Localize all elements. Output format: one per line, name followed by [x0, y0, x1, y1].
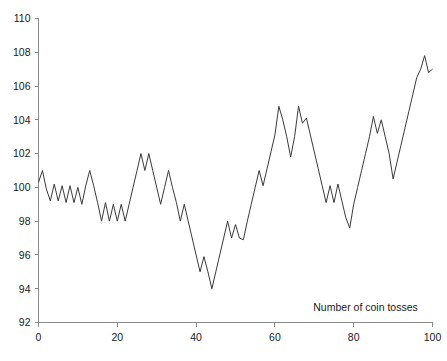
- y-axis-tick-label: 96: [19, 249, 31, 261]
- x-axis-tick-label: 100: [424, 331, 442, 343]
- y-axis-tick-label: 100: [13, 181, 31, 193]
- x-axis-tick-label: 40: [190, 331, 202, 343]
- data-series-group: [39, 56, 433, 289]
- annotation-group: Number of coin tosses: [313, 301, 417, 313]
- y-axis-tick-label: 102: [13, 147, 31, 159]
- y-axis: 92949698100102104106108110: [13, 12, 39, 328]
- coin-toss-random-walk-chart: 92949698100102104106108110 020406080100 …: [0, 0, 447, 361]
- x-axis: 020406080100: [36, 323, 442, 343]
- y-axis-tick-label: 94: [19, 283, 31, 295]
- x-axis-tick-label: 60: [269, 331, 281, 343]
- x-axis-tick-label: 0: [36, 331, 42, 343]
- data-line-series: [39, 56, 433, 289]
- y-axis-tick-label: 98: [19, 215, 31, 227]
- y-axis-tick-label: 106: [13, 80, 31, 92]
- x-axis-tick-label: 80: [348, 331, 360, 343]
- x-axis-caption: Number of coin tosses: [313, 301, 417, 313]
- x-axis-tick-label: 20: [111, 331, 123, 343]
- y-axis-tick-label: 92: [19, 316, 31, 328]
- chart-canvas: 92949698100102104106108110 020406080100 …: [0, 0, 447, 361]
- y-axis-tick-label: 110: [14, 12, 31, 24]
- y-axis-tick-label: 104: [13, 114, 31, 126]
- y-axis-tick-label: 108: [13, 46, 31, 58]
